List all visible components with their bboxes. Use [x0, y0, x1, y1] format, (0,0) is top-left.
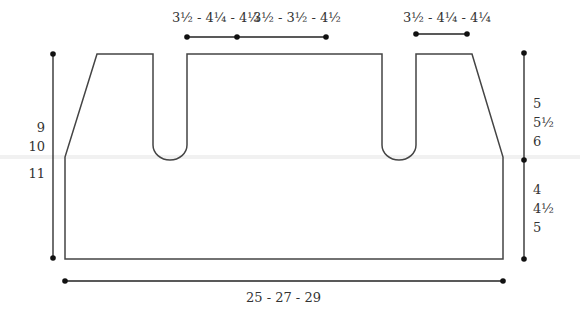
right-dimension-line: [521, 50, 527, 262]
right-upper-size-2: 5½: [533, 113, 554, 132]
bottom-dimension-line: [62, 278, 506, 284]
right-lower-size-2: 4½: [533, 199, 554, 218]
bottom-dimension-label: 25 - 27 - 29: [246, 291, 321, 304]
right-lower-dimension-labels: 4 4½ 5: [533, 180, 554, 237]
schematic-drawing: [0, 0, 580, 314]
left-size-2: 10: [24, 137, 45, 156]
top-center-dimension-label: 3½ - 3½ - 4½: [253, 11, 341, 24]
right-upper-dimension-labels: 5 5½ 6: [533, 94, 554, 151]
right-upper-size-1: 5: [533, 94, 554, 113]
left-dimension-labels: 9 10 11: [30, 118, 45, 183]
top-right-dimension-line: [413, 31, 470, 37]
right-lower-size-3: 5: [533, 218, 554, 237]
top-center-dimension-line: [184, 34, 329, 40]
top-right-dimension-label: 3½ - 4¼ - 4¼: [403, 11, 491, 24]
left-size-3: 11: [24, 164, 45, 183]
top-left-dimension-label: 3½ - 4¼ - 4¼: [172, 11, 260, 24]
right-lower-size-1: 4: [533, 180, 554, 199]
garment-outline: [65, 54, 503, 259]
right-upper-size-3: 6: [533, 132, 554, 151]
left-dimension-line: [50, 51, 56, 261]
left-size-1: 9: [30, 118, 45, 137]
